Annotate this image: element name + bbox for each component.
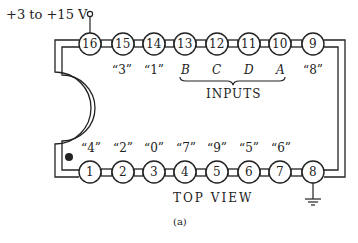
pin-14-label: “1” xyxy=(144,64,164,76)
pin-11-label: D xyxy=(244,64,254,76)
package-outline-left-outer xyxy=(55,40,91,177)
pin-11: 11 xyxy=(241,38,256,50)
pin-4-label: “7” xyxy=(176,142,196,154)
pin-links xyxy=(101,40,302,176)
pin-10-label: A xyxy=(276,64,285,76)
pin-14: 14 xyxy=(146,38,161,50)
pin-8: 8 xyxy=(309,166,317,178)
pin-12-label: C xyxy=(212,64,221,76)
pins xyxy=(79,33,324,183)
dot-icon xyxy=(65,153,73,161)
pin-1-label: “4” xyxy=(81,142,101,154)
pin-2: 2 xyxy=(119,166,127,178)
ground-icon xyxy=(305,183,321,205)
pin-2-label: “2” xyxy=(113,142,133,154)
pin-16: 16 xyxy=(82,38,97,50)
pin-6-label: “5” xyxy=(239,142,259,154)
figure-caption: (a) xyxy=(173,217,187,227)
pin-1: 1 xyxy=(86,166,94,178)
package-outline-right-inner xyxy=(324,47,338,170)
inputs-label: INPUTS xyxy=(206,88,261,100)
open-circle-terminal-icon xyxy=(87,11,92,16)
pin-6: 6 xyxy=(245,166,253,178)
pin-9: 9 xyxy=(309,38,317,50)
pin-15-label: “3” xyxy=(112,64,132,76)
pin-10: 10 xyxy=(272,38,287,50)
package-outline-right-outer xyxy=(324,40,345,177)
supply-voltage-label: +3 to +15 V xyxy=(6,8,87,21)
pin-9-label: “8” xyxy=(303,64,323,76)
pin-3-label: “0” xyxy=(144,142,164,154)
inputs-brace xyxy=(180,77,285,85)
pin-13-label: B xyxy=(181,64,190,76)
pin-3: 3 xyxy=(150,166,158,178)
pin-5-label: “9” xyxy=(207,142,227,154)
top-view-label: TOP VIEW xyxy=(173,192,253,204)
pin-4: 4 xyxy=(181,166,189,178)
pin-7-label: “6” xyxy=(271,142,291,154)
pin-7: 7 xyxy=(276,166,284,178)
pin-15: 15 xyxy=(115,38,130,50)
pin-13: 13 xyxy=(177,38,192,50)
pin-5: 5 xyxy=(213,166,221,178)
pin-12: 12 xyxy=(209,38,224,50)
